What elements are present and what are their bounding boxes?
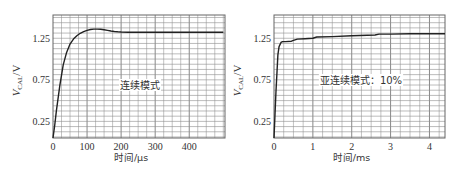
annotation-text: 亚连续模式：10% [320,74,402,86]
x-tick-label: 1 [310,141,315,152]
y-tick-label: 0.25 [254,116,272,127]
y-axis-label: VCAL/V [231,65,245,97]
x-tick-label: 400 [182,141,197,152]
panel-continuous-mode: 01002003004000.250.751.25时间/μsVCAL/V连续模式 [10,15,225,163]
x-tick-label: 2 [349,141,354,152]
x-tick-label: 200 [114,141,129,152]
y-tick-label: 1.25 [254,33,272,44]
y-axis-label: VCAL/V [10,65,24,97]
y-tick-label: 0.25 [33,116,51,127]
x-tick-label: 0 [272,141,277,152]
grid [53,15,225,138]
x-axis-label: 时间/ms [333,152,370,163]
x-tick-label: 100 [80,141,95,152]
annotation-text: 连续模式 [120,79,160,91]
x-tick-label: 4 [427,141,432,152]
y-tick-label: 1.25 [33,33,51,44]
y-axis-label-unit: /V [10,65,22,76]
y-tick-label: 0.75 [254,74,272,85]
x-tick-label: 0 [51,141,56,152]
y-axis-label-subscript: CAL [16,76,24,90]
y-axis-label-unit: /V [231,65,243,76]
y-axis-label-subscript: CAL [237,76,245,90]
x-tick-label: 3 [388,141,393,152]
chart-figure: 01002003004000.250.751.25时间/μsVCAL/V连续模式… [0,0,464,175]
x-axis-label: 时间/μs [114,152,148,163]
y-tick-label: 0.75 [33,74,51,85]
x-tick-label: 300 [148,141,163,152]
panel-sub-continuous-mode: 012340.250.751.25时间/msVCAL/V亚连续模式：10% [231,15,445,163]
